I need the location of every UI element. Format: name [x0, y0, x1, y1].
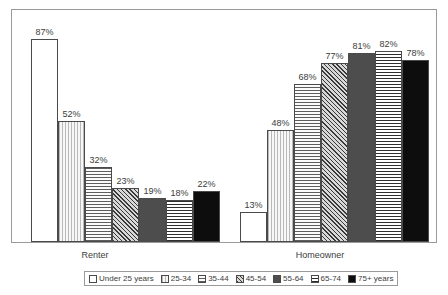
legend-swatch-icon [348, 275, 356, 283]
legend-swatch-icon [236, 275, 244, 283]
bar-renter-3: 23% [112, 9, 139, 242]
bars-layer: 87%52%32%23%19%18%22% 13%48%68%77%81%82%… [11, 9, 437, 243]
legend-swatch-icon [273, 275, 281, 283]
legend-item-6: 75+ years [348, 274, 393, 283]
category-label-homeowner: Homeowner [240, 250, 400, 261]
bar-renter-4: 19% [139, 9, 166, 242]
legend-item-4: 55-64 [273, 274, 303, 283]
legend-label: 45-54 [246, 274, 266, 283]
legend-label: 35-44 [208, 274, 228, 283]
bar-homeowner-6: 78% [402, 9, 429, 242]
legend-label: 75+ years [358, 274, 393, 283]
bar-renter-6: 22% [193, 9, 220, 242]
legend-label: 25-34 [171, 274, 191, 283]
bar-rect [112, 188, 139, 242]
bar-homeowner-5: 82% [375, 9, 402, 242]
bar-rect [240, 212, 267, 242]
bar-rect [31, 39, 58, 242]
bar-rect [402, 60, 429, 242]
bar-value-label: 78% [395, 48, 436, 58]
bar-homeowner-2: 68% [294, 9, 321, 242]
bar-homeowner-1: 48% [267, 9, 294, 242]
chart-legend: Under 25 years25-3435-4445-5455-6465-747… [84, 271, 398, 286]
legend-label: Under 25 years [99, 274, 154, 283]
bar-chart: 87%52%32%23%19%18%22% 13%48%68%77%81%82%… [0, 0, 448, 295]
legend-item-1: 25-34 [161, 274, 191, 283]
bar-rect [321, 63, 348, 242]
bar-renter-0: 87% [31, 9, 58, 242]
bar-renter-2: 32% [85, 9, 112, 242]
legend-item-2: 35-44 [198, 274, 228, 283]
bar-rect [267, 130, 294, 242]
legend-swatch-icon [89, 275, 97, 283]
bar-renter-1: 52% [58, 9, 85, 242]
legend-label: 55-64 [283, 274, 303, 283]
legend-label: 65-74 [321, 274, 341, 283]
legend-item-5: 65-74 [311, 274, 341, 283]
bar-renter-5: 18% [166, 9, 193, 242]
bar-rect [375, 51, 402, 242]
bar-value-label: 22% [186, 179, 227, 189]
bar-rect [348, 53, 375, 242]
legend-item-0: Under 25 years [89, 274, 154, 283]
legend-item-3: 45-54 [236, 274, 266, 283]
legend-swatch-icon [161, 275, 169, 283]
legend-swatch-icon [198, 275, 206, 283]
category-label-renter: Renter [35, 250, 155, 261]
bar-rect [294, 84, 321, 242]
bar-rect [58, 121, 85, 242]
bar-rect [139, 198, 166, 242]
bar-rect [166, 200, 193, 242]
legend-swatch-icon [311, 275, 319, 283]
bar-rect [193, 191, 220, 242]
